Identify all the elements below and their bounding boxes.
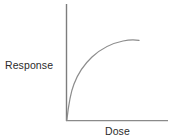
dose-response-curve [67,40,139,121]
dose-response-figure: Response Dose [0,0,191,140]
y-axis-label: Response [5,59,53,71]
x-axis-label: Dose [105,125,130,137]
